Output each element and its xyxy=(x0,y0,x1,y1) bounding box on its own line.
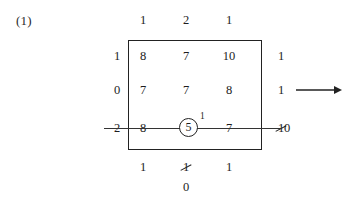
right-label-1: 1 xyxy=(268,83,294,98)
bottom-label-2: 1 xyxy=(216,160,242,175)
grid-cell-r0c0: 8 xyxy=(128,49,158,64)
grid-cell-r1c1: 7 xyxy=(171,83,201,98)
grid-cell-r0c2: 10 xyxy=(214,49,244,64)
top-label-0: 1 xyxy=(130,13,156,28)
grid-cell-r1c2: 8 xyxy=(214,83,244,98)
grid-cell-r1c0: 7 xyxy=(128,83,158,98)
figure-label: (1) xyxy=(16,13,32,29)
grid-cell-r0c1: 7 xyxy=(171,49,201,64)
bottom-label-1-struck: 1 xyxy=(173,160,199,175)
top-label-2: 1 xyxy=(216,13,242,28)
bottom-label-0: 1 xyxy=(130,160,156,175)
circled-cell-superscript: 1 xyxy=(200,111,205,121)
right-label-0: 1 xyxy=(268,49,294,64)
struck-value: 1 xyxy=(183,160,189,175)
right-arrow-icon xyxy=(296,84,342,96)
left-label-1: 0 xyxy=(104,83,130,98)
circled-cell-marker: 5 xyxy=(179,118,198,137)
bottom-correction-value: 0 xyxy=(173,180,199,195)
top-label-1: 2 xyxy=(173,13,199,28)
figure-diagram: (1) 1 2 1 1 0 2 1 1 1 0 8 7 10 7 7 8 8 7 xyxy=(0,0,351,202)
left-label-0: 1 xyxy=(104,49,130,64)
